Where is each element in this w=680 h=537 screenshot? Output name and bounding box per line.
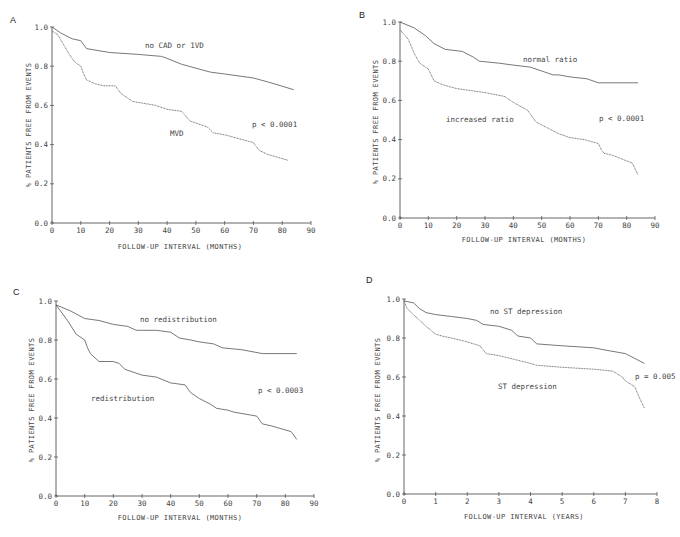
curve-label: increased ratio xyxy=(446,115,514,124)
y-axis-label: % PATIENTS FREE FROM EVENTS xyxy=(28,338,36,463)
x-tick-label: 30 xyxy=(137,499,147,508)
chart-a: 01020304050607080900.00.20.40.60.81.0FOL… xyxy=(25,23,316,252)
y-tick-label: 0.8 xyxy=(382,57,396,66)
y-tick-label: 0.6 xyxy=(38,375,52,384)
x-tick-label: 70 xyxy=(594,221,604,230)
x-tick-label: 1 xyxy=(433,497,438,506)
x-tick-label: 80 xyxy=(622,221,632,230)
curve-label: no redistribution xyxy=(140,315,217,324)
x-tick-label: 0 xyxy=(50,226,55,235)
y-tick-label: 0.2 xyxy=(34,179,48,188)
curve-label: no ST depression xyxy=(490,307,562,316)
x-axis-label: FOLLOW-UP INTERVAL (MONTHS) xyxy=(118,514,243,522)
chart-c: 01020304050607080900.00.20.40.60.81.0FOL… xyxy=(28,297,319,523)
x-tick-label: 0 xyxy=(402,497,407,506)
y-axis-label: % PATIENTS FREE FROM EVENTS xyxy=(372,60,380,185)
curve-label: p < 0.0003 xyxy=(258,386,303,395)
x-tick-label: 30 xyxy=(134,226,144,235)
x-tick-label: 60 xyxy=(565,221,575,230)
y-tick-label: 1.0 xyxy=(34,23,48,32)
x-tick-label: 80 xyxy=(281,499,291,508)
y-axis-label: % PATIENTS FREE FROM EVENTS xyxy=(374,338,382,463)
x-tick-label: 7 xyxy=(623,497,628,506)
x-tick-label: 5 xyxy=(560,497,565,506)
x-tick-label: 50 xyxy=(195,499,205,508)
x-tick-label: 40 xyxy=(163,226,173,235)
x-tick-label: 70 xyxy=(252,499,262,508)
curve-label: ST depression xyxy=(498,382,557,391)
x-tick-label: 3 xyxy=(497,497,502,506)
y-tick-label: 0.0 xyxy=(386,490,400,499)
y-tick-label: 0.2 xyxy=(38,453,52,462)
y-tick-label: 0.6 xyxy=(382,96,396,105)
x-tick-label: 4 xyxy=(528,497,533,506)
x-tick-label: 70 xyxy=(249,226,259,235)
x-tick-label: 80 xyxy=(278,226,288,235)
x-tick-label: 90 xyxy=(650,221,660,230)
x-tick-label: 10 xyxy=(424,221,434,230)
survival-curve-increased-ratio xyxy=(400,30,638,175)
x-tick-label: 2 xyxy=(465,497,470,506)
x-tick-label: 60 xyxy=(223,499,233,508)
x-axis-label: FOLLOW-UP INTERVAL (MONTHS) xyxy=(462,236,587,244)
x-axis-label: FOLLOW-UP INTERVAL (MONTHS) xyxy=(118,243,243,251)
curve-label: p < 0.0001 xyxy=(252,120,297,129)
x-tick-label: 8 xyxy=(655,497,660,506)
y-tick-label: 0.4 xyxy=(386,412,400,421)
curve-label: p = 0.005 xyxy=(635,372,676,381)
y-tick-label: 0.2 xyxy=(382,174,396,183)
x-tick-label: 30 xyxy=(480,221,490,230)
y-axis-label: % PATIENTS FREE FROM EVENTS xyxy=(25,63,33,188)
x-tick-label: 40 xyxy=(509,221,519,230)
x-tick-label: 20 xyxy=(105,226,115,235)
x-tick-label: 20 xyxy=(452,221,462,230)
x-tick-label: 50 xyxy=(537,221,547,230)
curve-label: normal ratio xyxy=(523,55,578,64)
x-axis-label: FOLLOW-UP INTERVAL (YEARS) xyxy=(464,513,584,521)
curve-label: no CAD or 1VD xyxy=(145,41,204,50)
y-tick-label: 0.0 xyxy=(38,492,52,501)
chart-b: 01020304050607080900.00.20.40.60.81.0FOL… xyxy=(372,18,660,245)
survival-curve-normal-ratio xyxy=(400,22,638,83)
survival-curve-mvd xyxy=(52,31,288,160)
survival-curve-redistribution xyxy=(56,305,297,440)
y-tick-label: 0.0 xyxy=(34,219,48,228)
y-tick-label: 1.0 xyxy=(386,295,400,304)
x-tick-label: 10 xyxy=(80,499,90,508)
survival-curve-st-depression xyxy=(404,301,644,408)
y-tick-label: 0.8 xyxy=(38,336,52,345)
y-tick-label: 0.4 xyxy=(38,414,52,423)
y-tick-label: 0.0 xyxy=(382,214,396,223)
x-tick-label: 6 xyxy=(591,497,596,506)
x-tick-label: 10 xyxy=(76,226,86,235)
y-tick-label: 0.6 xyxy=(34,101,48,110)
x-tick-label: 20 xyxy=(109,499,119,508)
x-tick-label: 40 xyxy=(166,499,176,508)
x-tick-label: 50 xyxy=(191,226,201,235)
y-tick-label: 0.8 xyxy=(34,62,48,71)
curve-label: p < 0.0001 xyxy=(599,114,644,123)
y-tick-label: 0.4 xyxy=(382,135,396,144)
x-tick-label: 0 xyxy=(54,499,59,508)
y-tick-label: 1.0 xyxy=(38,297,52,306)
survival-curve-no-redistribution xyxy=(56,305,297,354)
x-tick-label: 90 xyxy=(306,226,316,235)
y-tick-label: 0.8 xyxy=(386,334,400,343)
y-tick-label: 0.2 xyxy=(386,451,400,460)
plot-layer: 01020304050607080900.00.20.40.60.81.0FOL… xyxy=(0,0,680,537)
curve-label: MVD xyxy=(170,129,184,138)
chart-d: 0123456780.00.20.40.60.81.0FOLLOW-UP INT… xyxy=(374,295,676,522)
curve-label: redistribution xyxy=(91,394,154,403)
x-tick-label: 0 xyxy=(398,221,403,230)
y-tick-label: 0.4 xyxy=(34,140,48,149)
x-tick-label: 60 xyxy=(220,226,230,235)
x-tick-label: 90 xyxy=(309,499,319,508)
y-tick-label: 1.0 xyxy=(382,18,396,27)
y-tick-label: 0.6 xyxy=(386,373,400,382)
